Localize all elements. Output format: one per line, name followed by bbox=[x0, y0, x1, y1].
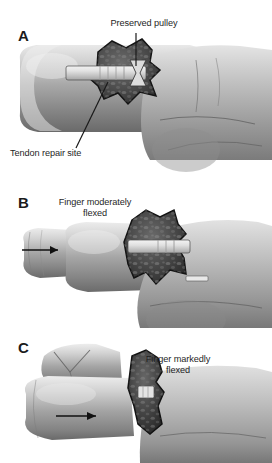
palm bbox=[141, 45, 272, 172]
panel-c: C Finger markedly flexed bbox=[0, 328, 272, 463]
panel-letter-a: A bbox=[18, 28, 29, 43]
panel-a: A Preserved pulley Tendon repair site bbox=[0, 0, 272, 180]
annotation-tendon-repair-site: Tendon repair site bbox=[10, 148, 130, 159]
annotation-finger-markedly-flexed: Finger markedly flexed bbox=[128, 354, 228, 376]
medical-illustration-figure: A Preserved pulley Tendon repair site bbox=[0, 0, 272, 463]
panel-letter-b: B bbox=[18, 195, 29, 210]
panel-c-artwork bbox=[0, 328, 272, 463]
annotation-finger-moderately-flexed: Finger moderately flexed bbox=[40, 197, 150, 219]
annotation-preserved-pulley: Preserved pulley bbox=[94, 18, 194, 29]
panel-letter-c: C bbox=[18, 340, 29, 355]
tendon-repair bbox=[138, 386, 154, 398]
proximal-phalanx bbox=[25, 376, 134, 440]
panel-b: B Finger moderately flexed bbox=[0, 180, 272, 328]
